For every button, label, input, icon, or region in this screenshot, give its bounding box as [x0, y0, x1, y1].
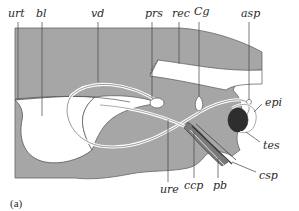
prostate — [150, 98, 164, 108]
label-urt: urt — [8, 8, 25, 19]
label-pb: pb — [213, 180, 227, 191]
label-ure: ure — [160, 184, 179, 195]
label-epi: epi — [265, 97, 282, 108]
anatomy-diagram — [0, 0, 299, 211]
label-vd: vd — [91, 8, 104, 19]
figure-caption: (a) — [10, 198, 22, 209]
label-bl: bl — [36, 8, 47, 19]
label-ccp: ccp — [184, 180, 203, 191]
label-prs: prs — [145, 8, 163, 19]
label-rec: rec — [172, 8, 190, 19]
label-cg: Cg — [194, 6, 209, 17]
label-tes: tes — [263, 140, 280, 151]
label-asp: asp — [241, 8, 260, 19]
label-csp: csp — [259, 170, 278, 181]
testis — [228, 108, 248, 132]
